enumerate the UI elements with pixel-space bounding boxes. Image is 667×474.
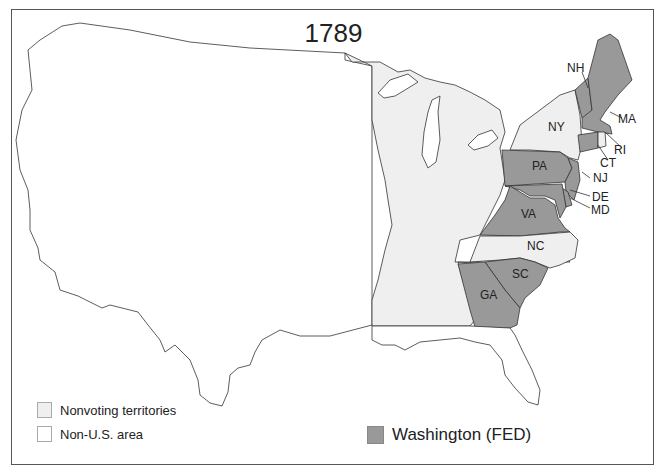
legend-nonvoting: Nonvoting territories — [37, 402, 176, 418]
label-RI: RI — [614, 143, 626, 157]
swatch-non-us — [37, 426, 52, 442]
state-CT[interactable] — [578, 132, 598, 152]
label-CT: CT — [600, 156, 617, 170]
legend-label-fed: Washington (FED) — [392, 425, 531, 445]
swatch-nonvoting — [37, 402, 52, 418]
label-GA: GA — [480, 288, 497, 302]
label-NH: NH — [567, 61, 584, 75]
label-NY: NY — [548, 120, 565, 134]
state-NY[interactable] — [510, 90, 582, 160]
florida-coast — [372, 326, 540, 405]
swatch-fed — [367, 426, 384, 444]
label-NJ: NJ — [593, 171, 608, 185]
label-VA: VA — [521, 207, 536, 221]
label-NC: NC — [527, 239, 545, 253]
label-PA: PA — [532, 159, 547, 173]
label-DE: DE — [592, 190, 609, 204]
state-RI[interactable] — [598, 132, 606, 148]
legend-non-us: Non-U.S. area — [37, 426, 143, 442]
label-MD: MD — [591, 203, 610, 217]
label-MA: MA — [618, 112, 636, 126]
legend-fed: Washington (FED) — [367, 425, 531, 445]
legend-label-non-us: Non-U.S. area — [60, 427, 143, 442]
non-us-area — [16, 23, 372, 406]
label-SC: SC — [512, 267, 529, 281]
legend-label-nonvoting: Nonvoting territories — [60, 403, 176, 418]
